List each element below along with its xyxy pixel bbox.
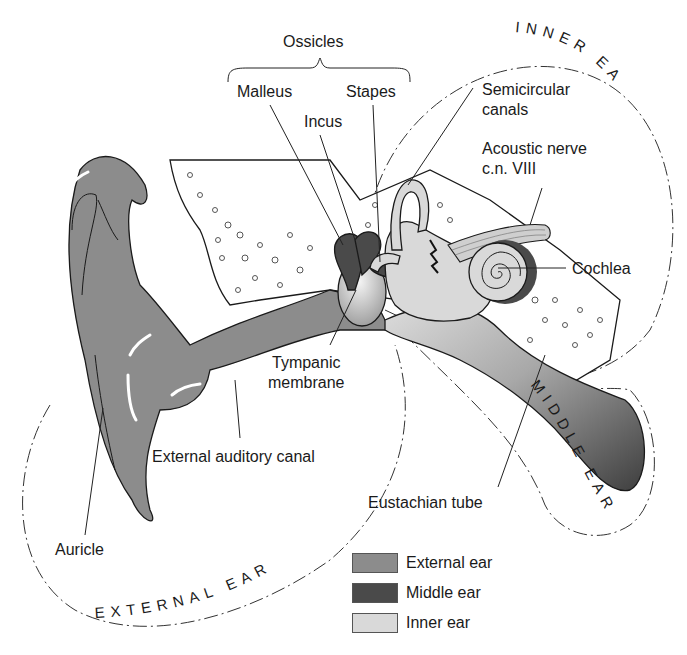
legend-item-middle: Middle ear [352,578,492,608]
label-incus: Incus [304,113,342,130]
label-semicircular-1: Semicircular [482,81,571,98]
label-eustachian: Eustachian tube [368,494,483,511]
label-tympanic-1: Tympanic [272,354,340,371]
legend-swatch-external [352,553,398,573]
legend-swatch-inner [352,613,398,633]
legend-label: Middle ear [406,584,481,602]
legend-swatch-middle [352,583,398,603]
legend-item-external: External ear [352,548,492,578]
label-external-canal: External auditory canal [152,448,315,465]
ear-anatomy-diagram: Ossicles Malleus Stapes Incus Semicircul… [0,0,687,655]
region-label-external-ear: EXTERNAL EAR [94,557,274,621]
label-acoustic-2: c.n. VIII [482,160,536,177]
legend: External ear Middle ear Inner ear [352,548,492,638]
label-cochlea: Cochlea [572,260,631,277]
label-stapes: Stapes [346,83,396,100]
label-malleus: Malleus [237,83,292,100]
legend-label: External ear [406,554,492,572]
diagram-canvas: Ossicles Malleus Stapes Incus Semicircul… [0,0,687,655]
label-auricle: Auricle [55,541,104,558]
label-ossicles: Ossicles [283,33,343,50]
legend-item-inner: Inner ear [352,608,492,638]
label-semicircular-2: canals [482,101,528,118]
legend-label: Inner ear [406,614,470,632]
label-acoustic-1: Acoustic nerve [482,140,587,157]
label-tympanic-2: membrane [268,374,345,391]
ossicles-brace [228,58,410,82]
